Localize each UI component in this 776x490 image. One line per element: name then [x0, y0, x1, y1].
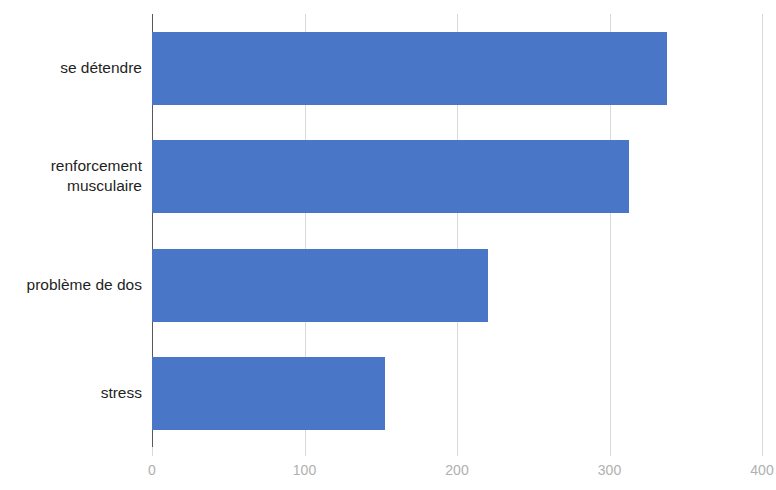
- bar-row: [152, 231, 762, 339]
- gridline-400: [762, 14, 763, 447]
- bar-row: [152, 122, 762, 230]
- x-tick-label: 100: [293, 462, 316, 478]
- x-tick-mark: [610, 447, 611, 456]
- x-tick-label: 300: [598, 462, 621, 478]
- x-tick-mark: [152, 447, 153, 456]
- bar-row: [152, 14, 762, 122]
- x-tick-label: 200: [445, 462, 468, 478]
- x-tick-mark: [762, 447, 763, 456]
- bar: [152, 32, 667, 105]
- x-tick-label: 400: [750, 462, 773, 478]
- bar: [152, 140, 629, 213]
- x-tick-mark: [457, 447, 458, 456]
- y-axis-label: se détendre: [0, 14, 142, 122]
- x-tick-mark: [305, 447, 306, 456]
- plot-area: [152, 14, 762, 447]
- y-axis-label: problème de dos: [0, 231, 142, 339]
- bar-chart: se détendrerenforcement musculaireproblè…: [0, 0, 776, 490]
- y-axis-label: renforcement musculaire: [0, 122, 142, 230]
- bar: [152, 249, 488, 322]
- bar: [152, 357, 385, 430]
- y-axis-label: stress: [0, 339, 142, 447]
- bar-row: [152, 339, 762, 447]
- x-tick-label: 0: [148, 462, 156, 478]
